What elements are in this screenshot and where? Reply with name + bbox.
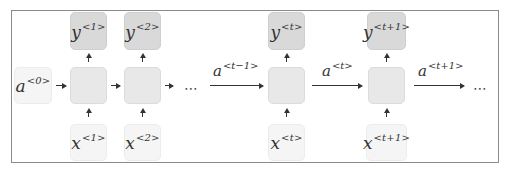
ellipsis-middle: ⋯ bbox=[184, 80, 200, 96]
initial-state-label: a<0> bbox=[16, 76, 51, 95]
output-node-2: y<2> bbox=[124, 12, 161, 50]
initial-state-node: a<0> bbox=[14, 67, 52, 104]
arrow-input1-to-cell1 bbox=[88, 110, 89, 117]
arrow-input-t-to-cell-t bbox=[286, 110, 287, 117]
arrow-input2-to-cell2 bbox=[142, 110, 143, 117]
edge-label-a-t-minus-1: a<t−1> bbox=[213, 60, 258, 80]
arrow-cell1-to-output1 bbox=[88, 55, 89, 62]
input-node-1: x<1> bbox=[70, 124, 107, 161]
arrow-input-t-plus-1-to-cell bbox=[386, 110, 387, 117]
hidden-cell-t bbox=[268, 67, 305, 104]
arrow-cell-t-plus-1-out bbox=[414, 85, 464, 86]
hidden-cell-t-plus-1 bbox=[368, 67, 405, 104]
hidden-cell-2 bbox=[124, 67, 161, 104]
arrow-to-cell-t bbox=[210, 85, 263, 86]
hidden-cell-1 bbox=[70, 67, 107, 104]
arrow-cell2-to-output2 bbox=[142, 55, 143, 62]
ellipsis-end: ⋯ bbox=[473, 80, 489, 96]
arrow-cell2-out bbox=[165, 85, 173, 86]
edge-label-a-t: a<t> bbox=[322, 60, 353, 80]
output-node-t-plus-1: y<t+1> bbox=[367, 12, 406, 50]
arrow-cell1-to-cell2 bbox=[111, 85, 120, 86]
arrow-a0-to-cell1 bbox=[56, 85, 66, 86]
input-node-2: x<2> bbox=[124, 124, 161, 161]
output-node-1: y<1> bbox=[70, 12, 107, 50]
arrow-cell-t-to-output-t bbox=[286, 55, 287, 62]
output-node-t: y<t> bbox=[268, 12, 305, 50]
arrow-cell-t-plus-1-to-output bbox=[386, 55, 387, 62]
arrow-cell-t-to-cell-t-plus-1 bbox=[312, 85, 362, 86]
input-node-t-plus-1: x<t+1> bbox=[366, 124, 407, 161]
edge-label-a-t-plus-1: a<t+1> bbox=[418, 60, 463, 80]
input-node-t: x<t> bbox=[268, 124, 305, 161]
